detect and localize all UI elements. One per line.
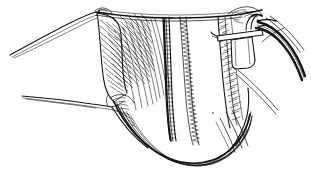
illustration-canvas [0, 0, 311, 178]
surgical-illustration-figure: Surgical line drawing of retracted tissu… [0, 0, 311, 178]
